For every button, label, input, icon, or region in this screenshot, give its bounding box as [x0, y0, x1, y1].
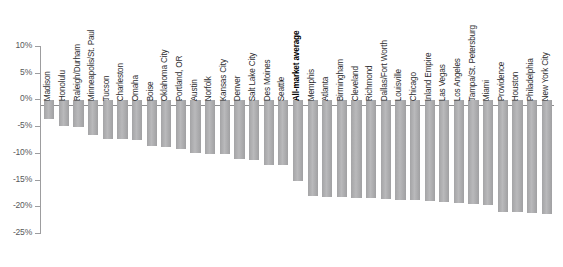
x-axis-category-label: Charleston — [117, 63, 125, 101]
bar-group[interactable]: Tucson — [101, 0, 116, 267]
bar[interactable] — [527, 100, 537, 212]
x-axis-category-label: Providence — [498, 62, 506, 101]
bar-group[interactable]: Inland Empire — [422, 0, 437, 267]
bar-group[interactable]: Denver — [232, 0, 247, 267]
bar-group[interactable]: Las Vegas — [437, 0, 452, 267]
bar[interactable] — [73, 100, 83, 126]
bar-group[interactable]: Raleigh/Durham — [71, 0, 86, 267]
y-axis-tick-label: -5% — [17, 120, 32, 130]
bar[interactable] — [190, 100, 200, 152]
bar[interactable] — [249, 100, 259, 160]
bar-group[interactable]: Atlanta — [320, 0, 335, 267]
x-axis-category-label: Tampa/St. Petersburg — [468, 25, 476, 101]
y-axis-tick-label: -15% — [13, 174, 32, 184]
x-axis-category-label: Minneapolis/St. Paul — [88, 29, 96, 101]
bar[interactable] — [381, 100, 391, 198]
bar-group[interactable]: Honolulu — [57, 0, 72, 267]
x-axis-category-label: Miami — [483, 80, 491, 101]
bar[interactable] — [205, 100, 215, 153]
x-axis-category-label: Tucson — [103, 75, 111, 101]
bar[interactable] — [410, 100, 420, 200]
bar-group[interactable]: Portland, OR — [174, 0, 189, 267]
bar[interactable] — [161, 100, 171, 147]
bar-group[interactable]: Madison — [42, 0, 57, 267]
x-axis-category-label: Louisville — [395, 69, 403, 101]
bar-group[interactable]: Birmingham — [335, 0, 350, 267]
bar[interactable] — [293, 100, 303, 180]
bar-group[interactable]: Memphis — [305, 0, 320, 267]
bar-group[interactable]: Charleston — [115, 0, 130, 267]
bar-group[interactable]: Dallas/Fort Worth — [378, 0, 393, 267]
bar[interactable] — [454, 100, 464, 203]
bar-group[interactable]: Los Angeles — [452, 0, 467, 267]
bar-group[interactable]: Norfolk — [203, 0, 218, 267]
bar[interactable] — [322, 100, 332, 196]
bar[interactable] — [439, 100, 449, 202]
bar-group[interactable]: Austin — [188, 0, 203, 267]
x-axis-category-label: Philadelphia — [527, 58, 535, 101]
x-axis-category-label: Norfolk — [205, 76, 213, 101]
bar-group[interactable]: Richmond — [364, 0, 379, 267]
plot-area: MadisonHonoluluRaleigh/DurhamMinneapolis… — [41, 0, 563, 267]
bar-group[interactable]: Omaha — [130, 0, 145, 267]
bar-group[interactable]: Seattle — [276, 0, 291, 267]
bar[interactable] — [337, 100, 347, 197]
x-axis-category-label: Las Vegas — [439, 64, 447, 101]
bar-group[interactable]: Chicago — [408, 0, 423, 267]
bar[interactable] — [512, 100, 522, 212]
bar[interactable] — [103, 100, 113, 138]
x-axis-category-label: Cleveland — [351, 66, 359, 101]
bar-group[interactable]: Louisville — [393, 0, 408, 267]
x-axis-category-label: Kansas City — [220, 59, 228, 101]
bar[interactable] — [88, 100, 98, 135]
bar-group[interactable]: Des Moines — [261, 0, 276, 267]
bar[interactable] — [468, 100, 478, 204]
x-axis-category-label: Portland, OR — [176, 55, 184, 101]
bar[interactable] — [59, 100, 69, 126]
bar[interactable] — [278, 100, 288, 165]
bar-group[interactable]: Tampa/St. Petersburg — [466, 0, 481, 267]
bar[interactable] — [220, 100, 230, 154]
bar-group[interactable]: Miami — [481, 0, 496, 267]
bar[interactable] — [132, 100, 142, 140]
bar[interactable] — [395, 100, 405, 199]
bar[interactable] — [483, 100, 493, 205]
x-axis-category-label: Richmond — [366, 65, 374, 101]
bar[interactable] — [147, 100, 157, 146]
y-axis: 10%5%0%-5%-10%-15%-20%-25% — [0, 0, 41, 267]
x-axis-category-label: Oklahoma City — [161, 49, 169, 101]
bar[interactable] — [366, 100, 376, 198]
bar[interactable] — [234, 100, 244, 159]
x-axis-category-label: Inland Empire — [424, 52, 432, 101]
bar[interactable] — [308, 100, 318, 196]
bar-group[interactable]: Philadelphia — [525, 0, 540, 267]
y-axis-tick-label: -20% — [13, 200, 32, 210]
bar[interactable] — [498, 100, 508, 211]
x-axis-category-label: Denver — [234, 76, 242, 102]
bar-group[interactable]: Boise — [144, 0, 159, 267]
bar[interactable] — [425, 100, 435, 200]
bar[interactable] — [351, 100, 361, 197]
bar-group[interactable]: All-market average — [291, 0, 306, 267]
y-axis-tick-label: 10% — [16, 40, 32, 50]
bar-group[interactable]: Cleveland — [349, 0, 364, 267]
x-axis-category-label: Des Moines — [264, 59, 272, 101]
bar-group[interactable]: Minneapolis/St. Paul — [86, 0, 101, 267]
y-axis-tick-label: -25% — [13, 227, 32, 237]
bar-group[interactable]: Oklahoma City — [159, 0, 174, 267]
x-axis-category-label: Chicago — [410, 72, 418, 101]
bar[interactable] — [176, 100, 186, 148]
bar[interactable] — [264, 100, 274, 164]
bar[interactable] — [542, 100, 552, 213]
x-axis-category-label: Memphis — [307, 69, 315, 101]
bar-group[interactable]: Houston — [510, 0, 525, 267]
bar-group[interactable]: Salt Lake City — [247, 0, 262, 267]
x-axis-category-label: Birmingham — [337, 59, 345, 101]
bar-group[interactable]: Providence — [495, 0, 510, 267]
bar-group[interactable]: New York City — [539, 0, 554, 267]
x-axis-category-label: Austin — [190, 79, 198, 101]
bar-group[interactable]: Kansas City — [218, 0, 233, 267]
x-axis-category-label: Madison — [44, 71, 52, 101]
bar[interactable] — [117, 100, 127, 139]
bar[interactable] — [44, 100, 54, 119]
